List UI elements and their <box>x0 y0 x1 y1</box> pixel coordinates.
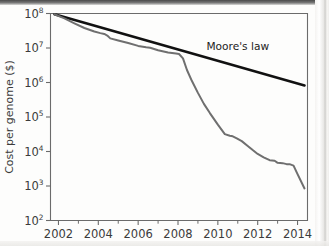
x-axis-tick-label: 2014 <box>283 227 312 241</box>
y-axis-tick-label: 102 <box>24 213 43 228</box>
x-axis-tick-label: 2008 <box>163 227 192 241</box>
y-axis-tick-label: 108 <box>24 6 44 21</box>
x-axis-tick-label: 2002 <box>44 227 73 241</box>
figure-container: 1081071061051041031022002200420062008201… <box>0 0 329 246</box>
y-axis-tick-label: 104 <box>24 144 44 159</box>
x-axis-tick-label: 2006 <box>124 227 153 241</box>
axis-title-layer: Cost per genome ($) <box>3 60 16 174</box>
y-axis-tick-label: 105 <box>24 109 44 124</box>
y-axis-tick-label: 103 <box>24 178 44 193</box>
y-axis-title: Cost per genome ($) <box>3 60 16 174</box>
y-axis-tick-label: 107 <box>24 40 44 55</box>
x-axis-tick-label: 2010 <box>203 227 232 241</box>
annotations-layer: Moore's law <box>206 40 269 52</box>
x-axis-tick-label: 2012 <box>243 227 272 241</box>
moores-law-annotation: Moore's law <box>206 40 269 52</box>
cost-per-genome-chart: 1081071061051041031022002200420062008201… <box>0 0 329 246</box>
x-axis-tick-label: 2004 <box>84 227 113 241</box>
y-axis-tick-label: 106 <box>24 75 44 90</box>
